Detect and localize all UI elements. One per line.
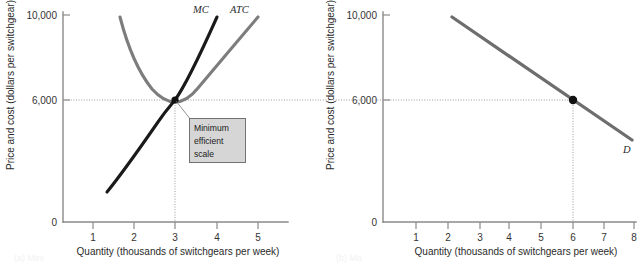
panel-a-ylabel-10000: 10,000: [26, 10, 57, 21]
economics-figure: Price and cost (dollars per switchgear) …: [0, 0, 639, 263]
callout-line-3: scale: [194, 149, 214, 159]
panel-a-caption-fragment: (a) Mini: [14, 253, 44, 263]
panel-a-ylabel-6000: 6,000: [32, 95, 57, 106]
mc-curve-label: MC: [192, 4, 210, 15]
callout-line-1: Minimum: [194, 123, 229, 133]
panel-a-x-axis-title: Quantity (thousands of switchgears per w…: [77, 246, 280, 257]
callout-line-2: efficient: [194, 136, 224, 146]
panel-b-xlabel-5: 5: [538, 232, 544, 243]
panel-b-xlabel-3: 3: [477, 232, 483, 243]
panel-b-xlabel-8: 8: [631, 232, 637, 243]
panel-b-caption-fragment: (b) Ma: [336, 253, 362, 263]
demand-point: [569, 96, 577, 104]
demand-curve: [452, 17, 632, 140]
mc-curve: [107, 17, 217, 192]
panel-a-xlabel-2: 2: [131, 232, 137, 243]
demand-curve-label: D: [622, 144, 631, 155]
callout-leader-line: [176, 101, 191, 120]
panel-b-x-axis-title: Quantity (thousands of switchgears per w…: [415, 246, 618, 257]
panel-b-xlabel-4: 4: [506, 232, 512, 243]
atc-curve-label: ATC: [229, 4, 250, 15]
panel-b-y-axis-title: Price and cost (dollars per switchgear): [325, 0, 336, 170]
panel-b-xlabel-1: 1: [413, 232, 419, 243]
panel-b-xlabel-7: 7: [601, 232, 607, 243]
panel-a-xlabel-5: 5: [255, 232, 261, 243]
panel-b-ylabel-0: 0: [371, 217, 377, 228]
panel-a-xlabel-4: 4: [214, 232, 220, 243]
atc-curve: [120, 17, 258, 102]
panel-b-xlabel-6: 6: [570, 232, 576, 243]
panel-a-chart: Price and cost (dollars per switchgear) …: [0, 0, 320, 263]
panel-a-xlabel-1: 1: [90, 232, 96, 243]
panel-b-xlabel-2: 2: [445, 232, 451, 243]
panel-a-xlabel-3: 3: [172, 232, 178, 243]
panel-b-ylabel-10000: 10,000: [346, 10, 377, 21]
panel-a-y-axis-title: Price and cost (dollars per switchgear): [5, 0, 16, 170]
panel-a-ylabel-0: 0: [51, 217, 57, 228]
panel-b-chart: Price and cost (dollars per switchgear) …: [320, 0, 639, 263]
